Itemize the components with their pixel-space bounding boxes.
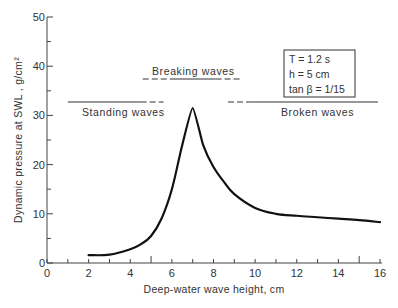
- x-tick-label: 8: [210, 267, 216, 279]
- y-tick-label: 10: [33, 208, 45, 220]
- param-slope: tan β = 1/15: [289, 83, 345, 95]
- y-axis-title: Dynamic pressure at SWL , g/cm²: [12, 57, 24, 223]
- x-tick-label: 4: [127, 267, 133, 279]
- y-tick-label: 30: [33, 109, 45, 121]
- y-tick-label: 20: [33, 159, 45, 171]
- x-ticks: 0246810121416: [44, 256, 386, 279]
- param-period: T = 1.2 s: [289, 53, 330, 65]
- x-tick-label: 12: [291, 267, 303, 279]
- y-tick-label: 0: [39, 257, 45, 269]
- parameter-box: T = 1.2 s h = 5 cm tan β = 1/15: [284, 50, 355, 97]
- x-axis-title: Deep-water wave height, cm: [144, 283, 285, 295]
- x-tick-label: 6: [169, 267, 175, 279]
- broken-waves-label: Broken waves: [281, 106, 354, 118]
- param-depth: h = 5 cm: [289, 68, 330, 80]
- x-tick-label: 16: [374, 267, 386, 279]
- x-tick-label: 10: [249, 267, 261, 279]
- x-tick-label: 2: [86, 267, 92, 279]
- standing-waves-label: Standing waves: [82, 106, 165, 118]
- y-tick-label: 50: [33, 11, 45, 23]
- y-tick-label: 40: [33, 60, 45, 72]
- chart: 0246810121416 01020304050 Standing waves…: [0, 0, 398, 308]
- pressure-curve: [89, 108, 380, 255]
- x-tick-label: 14: [332, 267, 344, 279]
- y-ticks: 01020304050: [33, 11, 53, 269]
- breaking-waves-label: Breaking waves: [152, 65, 235, 77]
